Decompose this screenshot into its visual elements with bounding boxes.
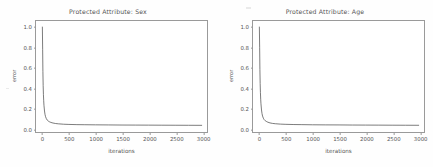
y-tick-label: 0.4 xyxy=(23,86,32,92)
y-tick-mark xyxy=(251,68,254,69)
x-axis-label: iterations xyxy=(252,148,425,154)
y-axis-label: error xyxy=(228,70,234,83)
scan-artifact xyxy=(6,88,9,89)
x-tick-mark xyxy=(313,132,314,135)
x-tick-mark xyxy=(286,132,287,135)
y-tick-label: 1.0 xyxy=(240,24,249,30)
chart-title: Protected Attribute: Sex xyxy=(0,8,216,15)
y-tick-label: 0.2 xyxy=(23,106,32,112)
y-tick-mark xyxy=(251,47,254,48)
x-tick-mark xyxy=(420,132,421,135)
x-tick-mark xyxy=(42,132,43,135)
plot-area: 0.00.20.40.60.81.00500100015002000250030… xyxy=(35,20,208,133)
x-tick-label: 1500 xyxy=(333,136,347,142)
y-tick-mark xyxy=(34,88,37,89)
x-tick-label: 1000 xyxy=(89,136,103,142)
y-tick-label: 0.2 xyxy=(240,106,249,112)
plot-area: 0.00.20.40.60.81.00500100015002000250030… xyxy=(252,20,425,133)
x-tick-label: 2500 xyxy=(170,136,184,142)
y-tick-label: 0.4 xyxy=(240,86,249,92)
y-tick-mark xyxy=(34,47,37,48)
y-tick-label: 0.0 xyxy=(23,127,32,133)
y-tick-mark xyxy=(34,109,37,110)
figure-canvas: Protected Attribute: Sex 0.00.20.40.60.8… xyxy=(0,0,433,167)
y-tick-mark xyxy=(251,88,254,89)
x-tick-label: 2000 xyxy=(143,136,157,142)
x-tick-mark xyxy=(340,132,341,135)
x-tick-mark xyxy=(259,132,260,135)
y-tick-label: 1.0 xyxy=(23,24,32,30)
x-tick-mark xyxy=(393,132,394,135)
y-tick-label: 0.6 xyxy=(23,65,32,71)
x-tick-mark xyxy=(203,132,204,135)
y-tick-label: 0.8 xyxy=(23,45,32,51)
chart-panel-sex: Protected Attribute: Sex 0.00.20.40.60.8… xyxy=(0,0,216,167)
x-tick-label: 3000 xyxy=(414,136,428,142)
x-tick-label: 1500 xyxy=(116,136,130,142)
x-tick-label: 0 xyxy=(41,136,44,142)
data-line xyxy=(259,27,418,125)
y-tick-label: 0.0 xyxy=(240,127,249,133)
x-tick-mark xyxy=(123,132,124,135)
x-axis-label: iterations xyxy=(35,148,208,154)
y-tick-label: 0.6 xyxy=(240,65,249,71)
chart-title: Protected Attribute: Age xyxy=(217,8,433,15)
x-tick-label: 500 xyxy=(281,136,291,142)
y-tick-mark xyxy=(251,130,254,131)
x-tick-label: 1000 xyxy=(306,136,320,142)
x-tick-label: 2500 xyxy=(387,136,401,142)
chart-panel-age: Protected Attribute: Age 0.00.20.40.60.8… xyxy=(217,0,433,167)
x-tick-mark xyxy=(69,132,70,135)
y-tick-mark xyxy=(251,27,254,28)
x-tick-label: 0 xyxy=(258,136,261,142)
scan-artifact xyxy=(246,7,251,9)
x-tick-mark xyxy=(150,132,151,135)
y-tick-mark xyxy=(34,68,37,69)
data-line xyxy=(42,27,201,125)
x-tick-label: 500 xyxy=(64,136,74,142)
y-tick-mark xyxy=(34,27,37,28)
x-tick-mark xyxy=(176,132,177,135)
y-tick-label: 0.8 xyxy=(240,45,249,51)
y-tick-mark xyxy=(251,109,254,110)
x-tick-label: 3000 xyxy=(197,136,211,142)
y-axis-label: error xyxy=(11,70,17,83)
y-tick-mark xyxy=(34,130,37,131)
x-tick-mark xyxy=(367,132,368,135)
x-tick-label: 2000 xyxy=(360,136,374,142)
x-tick-mark xyxy=(96,132,97,135)
